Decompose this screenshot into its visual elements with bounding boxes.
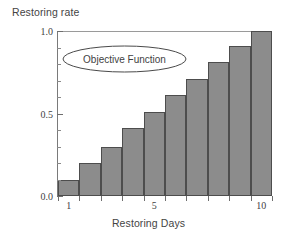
y-axis-minor-tick [57, 130, 61, 131]
bar [165, 95, 186, 196]
y-axis-minor-tick [57, 180, 61, 181]
y-axis-label: Restoring rate [12, 6, 79, 18]
y-axis-minor-tick [57, 64, 61, 65]
x-axis-tick [229, 196, 230, 201]
x-axis-tick-label: 5 [139, 200, 169, 211]
y-axis-tick-label: 1.0 [10, 26, 53, 37]
x-axis-label-wrap: Restoring Days [0, 217, 285, 229]
x-axis-tick [122, 196, 123, 201]
y-axis-minor-tick [57, 81, 61, 82]
bar [79, 163, 100, 196]
bar [101, 147, 122, 197]
x-axis-label: Restoring Days [112, 217, 185, 229]
bar [186, 79, 207, 196]
objective-function-label: Objective Function [62, 45, 187, 73]
y-axis-major-tick [57, 114, 63, 115]
y-axis-tick-label: 0.0 [10, 191, 53, 202]
bar [144, 112, 165, 196]
y-axis-tick-label: 0.5 [10, 108, 53, 119]
x-axis-tick [101, 196, 102, 201]
x-axis-tick [186, 196, 187, 201]
bar [251, 31, 272, 196]
y-axis-major-tick [57, 31, 63, 32]
bar [58, 180, 79, 197]
bar [229, 46, 250, 196]
y-axis-minor-tick [57, 147, 61, 148]
y-axis-minor-tick [57, 163, 61, 164]
bar [122, 128, 143, 196]
bar [208, 62, 229, 196]
chart-figure: Restoring rate 1.00.50.0 1510 Objective … [0, 0, 285, 242]
objective-function-callout: Objective Function [62, 45, 187, 73]
x-axis-tick [208, 196, 209, 201]
x-axis-tick-label: 1 [54, 200, 84, 211]
y-axis-minor-tick [57, 48, 61, 49]
y-axis-minor-tick [57, 97, 61, 98]
x-axis-tick-label: 10 [246, 200, 276, 211]
